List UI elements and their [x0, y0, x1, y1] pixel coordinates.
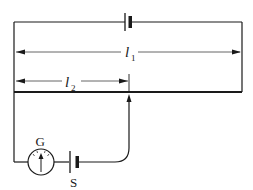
label-l2: l	[65, 74, 69, 90]
label-l1: l	[125, 44, 129, 60]
label-l2-subscript: 2	[71, 83, 76, 93]
battery-icon	[125, 13, 132, 31]
secondary-circuit	[14, 94, 132, 162]
label-l1-subscript: 1	[131, 53, 136, 63]
arrow-left-icon	[16, 50, 25, 55]
cell-icon	[70, 151, 79, 173]
galvanometer-icon	[28, 149, 54, 175]
jockey-arrow-icon	[127, 94, 132, 102]
arrow-left-icon	[16, 79, 25, 84]
potentiometer-circuit-diagram: l 1 l 2 G S	[0, 0, 253, 190]
label-cell: S	[70, 175, 77, 190]
dimension-l1: l 1	[16, 44, 241, 63]
label-galvanometer: G	[36, 134, 45, 149]
arrow-right-icon	[119, 79, 128, 84]
jockey-wire	[79, 98, 129, 162]
arrow-right-icon	[232, 50, 241, 55]
dimension-l2: l 2	[16, 74, 129, 93]
